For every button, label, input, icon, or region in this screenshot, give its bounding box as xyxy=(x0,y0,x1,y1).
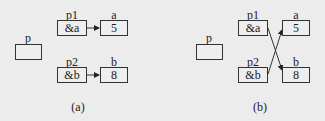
box-b: 8 xyxy=(282,67,310,83)
arrow-p2-to-a xyxy=(268,30,282,74)
box-b: 8 xyxy=(100,67,128,83)
label-p: p xyxy=(15,32,41,44)
box-p2: &b xyxy=(57,67,87,83)
box-a: 5 xyxy=(282,20,310,36)
box-p1: &a xyxy=(57,20,87,36)
box-p xyxy=(15,44,42,60)
caption-a: (a) xyxy=(60,101,96,113)
box-p2: &b xyxy=(238,67,268,83)
box-p1: &a xyxy=(238,20,268,36)
label-p: p xyxy=(196,32,222,44)
box-a: 5 xyxy=(100,20,128,36)
box-p xyxy=(196,44,223,60)
caption-b: (b) xyxy=(242,101,278,113)
arrow-p1-to-b xyxy=(268,28,282,70)
